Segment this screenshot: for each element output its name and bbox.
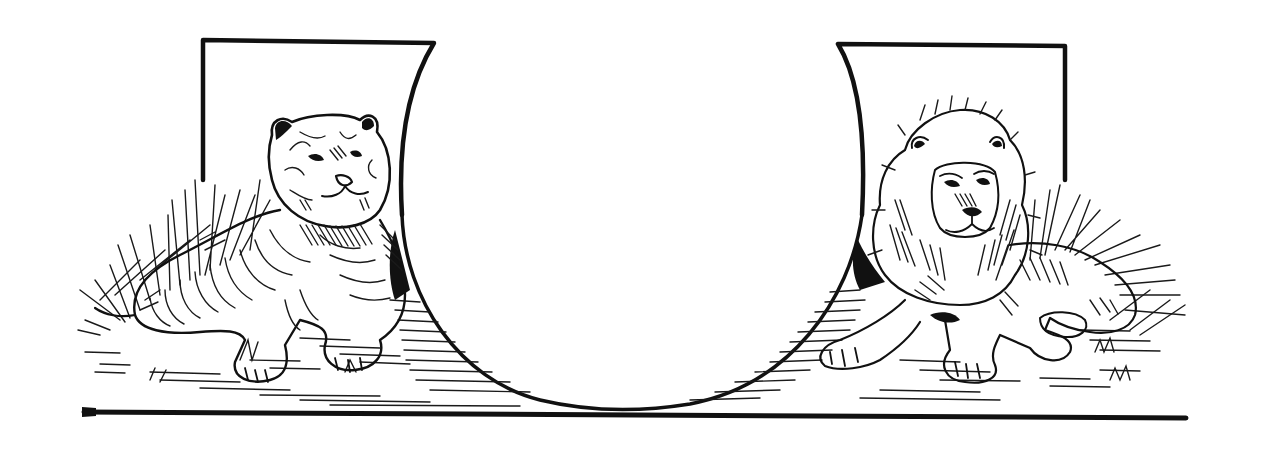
tiger-figure — [95, 115, 410, 382]
left-ground-hatching — [85, 300, 530, 406]
left-grass — [78, 180, 356, 382]
lion-figure — [820, 96, 1136, 383]
illustration-canvas — [0, 0, 1263, 455]
engraving-illustration — [0, 0, 1263, 455]
right-ground-hatching — [690, 290, 1160, 400]
letter-u-frame — [82, 40, 1186, 418]
